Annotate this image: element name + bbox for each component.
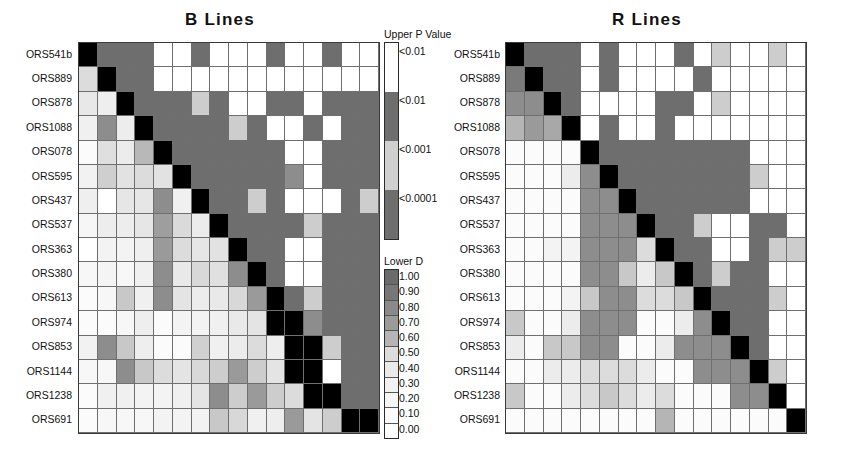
- heatmap-cell[interactable]: [98, 360, 117, 384]
- heatmap-cell[interactable]: [562, 360, 581, 384]
- heatmap-cell[interactable]: [285, 262, 304, 286]
- heatmap-cell[interactable]: [544, 189, 563, 213]
- heatmap-cell[interactable]: [525, 141, 544, 165]
- heatmap-cell[interactable]: [210, 262, 229, 286]
- heatmap-cell[interactable]: [581, 409, 600, 433]
- heatmap-cell[interactable]: [210, 67, 229, 91]
- heatmap-cell[interactable]: [98, 214, 117, 238]
- heatmap-matrix-r[interactable]: [505, 42, 807, 434]
- heatmap-cell[interactable]: [600, 262, 619, 286]
- heatmap-cell[interactable]: [248, 336, 267, 360]
- heatmap-cell[interactable]: [117, 384, 136, 408]
- heatmap-cell[interactable]: [600, 165, 619, 189]
- heatmap-cell[interactable]: [248, 189, 267, 213]
- heatmap-cell[interactable]: [637, 238, 656, 262]
- heatmap-cell[interactable]: [267, 360, 286, 384]
- heatmap-cell[interactable]: [192, 409, 211, 433]
- heatmap-cell[interactable]: [506, 238, 525, 262]
- heatmap-cell[interactable]: [342, 67, 361, 91]
- heatmap-cell[interactable]: [506, 384, 525, 408]
- heatmap-cell[interactable]: [98, 43, 117, 67]
- heatmap-cell[interactable]: [360, 238, 379, 262]
- heatmap-cell[interactable]: [248, 409, 267, 433]
- heatmap-cell[interactable]: [525, 287, 544, 311]
- heatmap-cell[interactable]: [229, 116, 248, 140]
- heatmap-cell[interactable]: [769, 214, 788, 238]
- heatmap-cell[interactable]: [135, 214, 154, 238]
- heatmap-cell[interactable]: [656, 141, 675, 165]
- heatmap-cell[interactable]: [506, 189, 525, 213]
- heatmap-cell[interactable]: [79, 360, 98, 384]
- heatmap-cell[interactable]: [787, 116, 806, 140]
- heatmap-cell[interactable]: [694, 67, 713, 91]
- heatmap-cell[interactable]: [562, 409, 581, 433]
- heatmap-cell[interactable]: [304, 409, 323, 433]
- heatmap-cell[interactable]: [637, 189, 656, 213]
- heatmap-cell[interactable]: [154, 189, 173, 213]
- heatmap-cell[interactable]: [731, 287, 750, 311]
- heatmap-cell[interactable]: [787, 238, 806, 262]
- heatmap-cell[interactable]: [525, 67, 544, 91]
- heatmap-cell[interactable]: [210, 165, 229, 189]
- heatmap-cell[interactable]: [544, 214, 563, 238]
- heatmap-cell[interactable]: [619, 409, 638, 433]
- heatmap-cell[interactable]: [562, 141, 581, 165]
- heatmap-cell[interactable]: [712, 384, 731, 408]
- heatmap-cell[interactable]: [787, 409, 806, 433]
- heatmap-cell[interactable]: [267, 238, 286, 262]
- heatmap-cell[interactable]: [750, 238, 769, 262]
- heatmap-cell[interactable]: [135, 287, 154, 311]
- heatmap-cell[interactable]: [731, 336, 750, 360]
- heatmap-cell[interactable]: [79, 92, 98, 116]
- heatmap-cell[interactable]: [210, 141, 229, 165]
- heatmap-cell[interactable]: [229, 287, 248, 311]
- heatmap-cell[interactable]: [731, 43, 750, 67]
- heatmap-cell[interactable]: [267, 311, 286, 335]
- heatmap-cell[interactable]: [600, 43, 619, 67]
- heatmap-cell[interactable]: [285, 92, 304, 116]
- heatmap-cell[interactable]: [600, 409, 619, 433]
- heatmap-cell[interactable]: [285, 360, 304, 384]
- heatmap-cell[interactable]: [506, 141, 525, 165]
- heatmap-cell[interactable]: [562, 336, 581, 360]
- heatmap-cell[interactable]: [323, 67, 342, 91]
- heatmap-cell[interactable]: [98, 384, 117, 408]
- heatmap-cell[interactable]: [117, 214, 136, 238]
- heatmap-cell[interactable]: [637, 384, 656, 408]
- heatmap-cell[interactable]: [544, 141, 563, 165]
- heatmap-cell[interactable]: [154, 336, 173, 360]
- heatmap-cell[interactable]: [342, 141, 361, 165]
- heatmap-cell[interactable]: [506, 360, 525, 384]
- heatmap-cell[interactable]: [285, 116, 304, 140]
- heatmap-cell[interactable]: [562, 189, 581, 213]
- heatmap-cell[interactable]: [360, 262, 379, 286]
- heatmap-cell[interactable]: [360, 214, 379, 238]
- heatmap-cell[interactable]: [323, 238, 342, 262]
- heatmap-cell[interactable]: [248, 262, 267, 286]
- heatmap-cell[interactable]: [656, 165, 675, 189]
- heatmap-cell[interactable]: [323, 189, 342, 213]
- heatmap-cell[interactable]: [769, 141, 788, 165]
- heatmap-cell[interactable]: [600, 116, 619, 140]
- heatmap-cell[interactable]: [267, 287, 286, 311]
- heatmap-cell[interactable]: [675, 141, 694, 165]
- heatmap-cell[interactable]: [506, 311, 525, 335]
- heatmap-cell[interactable]: [619, 92, 638, 116]
- heatmap-cell[interactable]: [694, 116, 713, 140]
- heatmap-cell[interactable]: [787, 141, 806, 165]
- heatmap-cell[interactable]: [360, 311, 379, 335]
- heatmap-cell[interactable]: [79, 311, 98, 335]
- heatmap-cell[interactable]: [154, 311, 173, 335]
- heatmap-cell[interactable]: [581, 311, 600, 335]
- heatmap-cell[interactable]: [98, 141, 117, 165]
- heatmap-cell[interactable]: [360, 287, 379, 311]
- heatmap-cell[interactable]: [248, 67, 267, 91]
- heatmap-cell[interactable]: [360, 409, 379, 433]
- heatmap-cell[interactable]: [581, 43, 600, 67]
- heatmap-cell[interactable]: [581, 116, 600, 140]
- heatmap-cell[interactable]: [229, 92, 248, 116]
- heatmap-cell[interactable]: [731, 384, 750, 408]
- heatmap-cell[interactable]: [360, 67, 379, 91]
- heatmap-cell[interactable]: [79, 238, 98, 262]
- heatmap-cell[interactable]: [731, 311, 750, 335]
